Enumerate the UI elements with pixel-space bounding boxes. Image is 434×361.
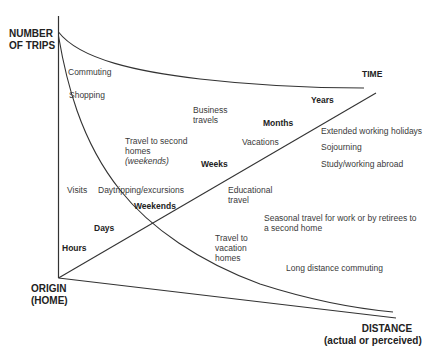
y-axis-label: NUMBER OF TRIPS bbox=[9, 28, 55, 52]
marker-weekends: Weekends bbox=[134, 201, 176, 211]
activity-long-distance-commuting: Long distance commuting bbox=[286, 263, 383, 273]
vacation-homes-line2: vacation bbox=[215, 243, 248, 253]
activity-commuting: Commuting bbox=[68, 67, 111, 77]
x-axis-label-line1: DISTANCE bbox=[345, 323, 429, 335]
educational-line1: Educational bbox=[228, 185, 272, 195]
activity-daytripping: Daytripping/excursions bbox=[98, 185, 184, 195]
activity-seasonal-travel: Seasonal travel for work or by retirees … bbox=[264, 213, 417, 233]
activity-shopping: Shopping bbox=[69, 90, 105, 100]
second-homes-line3: (weekends) bbox=[125, 156, 188, 166]
second-homes-line2: homes bbox=[125, 146, 188, 156]
origin-label: ORIGIN (HOME) bbox=[31, 283, 68, 307]
activity-business-travels: Business travels bbox=[193, 105, 228, 125]
upper-decay-curve bbox=[59, 32, 365, 88]
time-label: TIME bbox=[362, 69, 382, 79]
y-axis-label-line1: NUMBER bbox=[9, 28, 55, 40]
activity-vacations: Vacations bbox=[242, 137, 279, 147]
marker-hours: Hours bbox=[62, 243, 87, 253]
activity-visits: Visits bbox=[67, 185, 87, 195]
x-axis-label: DISTANCE bbox=[345, 323, 429, 335]
marker-weeks: Weeks bbox=[201, 159, 228, 169]
x-axis-label-line2: (actual or perceived) bbox=[324, 335, 422, 347]
travel-time-distance-diagram: NUMBER OF TRIPS ORIGIN (HOME) DISTANCE (… bbox=[0, 0, 434, 361]
activity-educational-travel: Educational travel bbox=[228, 185, 272, 205]
activity-study-working-abroad: Study/working abroad bbox=[321, 159, 403, 169]
vacation-homes-line1: Travel to bbox=[215, 233, 248, 243]
seasonal-line1: Seasonal travel for work or by retirees … bbox=[264, 213, 417, 223]
activity-extended-working-holidays: Extended working holidays bbox=[321, 126, 422, 136]
marker-years: Years bbox=[311, 95, 334, 105]
marker-months: Months bbox=[263, 118, 293, 128]
marker-days: Days bbox=[94, 223, 114, 233]
business-line2: travels bbox=[193, 115, 228, 125]
educational-line2: travel bbox=[228, 195, 272, 205]
origin-label-line1: ORIGIN bbox=[31, 283, 68, 295]
seasonal-line2: a second home bbox=[264, 223, 417, 233]
vacation-homes-line3: homes bbox=[215, 253, 248, 263]
activity-second-homes: Travel to second homes (weekends) bbox=[125, 136, 188, 166]
x-axis-line bbox=[59, 278, 397, 318]
second-homes-line1: Travel to second bbox=[125, 136, 188, 146]
x-axis-sublabel: (actual or perceived) bbox=[324, 335, 422, 347]
y-axis-label-line2: OF TRIPS bbox=[9, 40, 55, 52]
business-line1: Business bbox=[193, 105, 228, 115]
activity-sojourning: Sojourning bbox=[321, 142, 362, 152]
activity-vacation-homes: Travel to vacation homes bbox=[215, 233, 248, 263]
origin-label-line2: (HOME) bbox=[31, 295, 68, 307]
